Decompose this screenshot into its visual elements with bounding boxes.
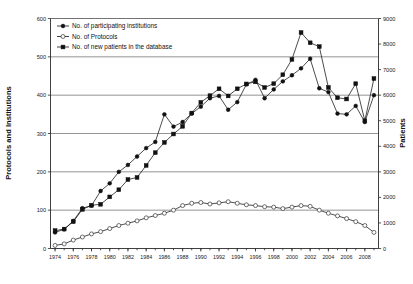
x-tick-label: 1996 xyxy=(250,254,262,260)
data-point-marker xyxy=(144,216,148,220)
data-point-marker xyxy=(317,45,321,49)
data-point-marker xyxy=(281,73,285,77)
y2-tick-label: 7000 xyxy=(383,67,395,73)
data-point-marker xyxy=(181,120,185,124)
data-point-marker xyxy=(53,229,57,233)
data-point-marker xyxy=(199,201,203,205)
y-tick-label: 500 xyxy=(37,54,46,60)
data-point-marker xyxy=(354,82,358,86)
y2-tick-label: 2000 xyxy=(383,194,395,200)
data-point-marker xyxy=(326,86,330,90)
data-point-marker xyxy=(199,100,203,104)
data-point-marker xyxy=(235,100,239,104)
x-tick-label: 1980 xyxy=(104,254,116,260)
data-point-marker xyxy=(172,208,176,212)
y2-tick-label: 8000 xyxy=(383,41,395,47)
y2-tick-label: 9000 xyxy=(383,16,395,22)
x-tick-label: 1994 xyxy=(231,254,243,260)
data-point-marker xyxy=(190,111,194,115)
data-point-marker xyxy=(153,151,157,155)
legend-label: No. of participating institutions xyxy=(72,22,157,30)
data-point-marker xyxy=(117,224,121,228)
data-point-marker xyxy=(345,217,349,221)
data-point-marker xyxy=(117,170,121,174)
x-tick-label: 2006 xyxy=(341,254,353,260)
y2-tick-label: 3000 xyxy=(383,169,395,175)
data-point-marker xyxy=(299,31,303,35)
data-point-marker xyxy=(281,207,285,211)
y2-tick-label: 5000 xyxy=(383,118,395,124)
data-point-marker xyxy=(263,86,267,90)
data-point-marker xyxy=(254,80,258,84)
data-point-marker xyxy=(199,105,203,109)
data-point-marker xyxy=(326,90,330,94)
x-tick-label: 2000 xyxy=(286,254,298,260)
data-point-marker xyxy=(372,230,376,234)
data-point-marker xyxy=(135,155,139,159)
data-point-marker xyxy=(308,57,312,61)
data-point-marker xyxy=(90,232,94,236)
data-point-marker xyxy=(126,163,130,167)
legend-label: No. of new patients in the database xyxy=(72,43,173,51)
x-tick-label: 1992 xyxy=(213,254,225,260)
data-point-marker xyxy=(62,242,66,246)
x-tick-label: 2008 xyxy=(359,254,371,260)
data-point-marker xyxy=(217,201,221,205)
y-tick-label: 0 xyxy=(43,246,46,252)
y-tick-label: 400 xyxy=(37,92,46,98)
data-point-marker xyxy=(272,205,276,209)
data-point-marker xyxy=(317,208,321,212)
x-tick-label: 1982 xyxy=(122,254,134,260)
data-point-marker xyxy=(181,204,185,208)
y-tick-label: 600 xyxy=(37,16,46,22)
data-point-marker xyxy=(372,77,376,81)
chart-container: 1974197619781980198219841986198819901992… xyxy=(0,0,413,284)
data-point-marker xyxy=(299,66,303,70)
data-point-marker xyxy=(354,220,358,224)
data-point-marker xyxy=(208,202,212,206)
x-tick-label: 1990 xyxy=(195,254,207,260)
data-point-marker xyxy=(62,227,66,231)
data-point-marker xyxy=(244,203,248,207)
data-point-marker xyxy=(144,146,148,150)
data-point-marker xyxy=(99,189,103,193)
data-point-marker xyxy=(308,204,312,208)
data-point-marker xyxy=(226,108,230,112)
data-point-marker xyxy=(181,124,185,128)
data-point-marker xyxy=(363,224,367,228)
data-point-marker xyxy=(217,87,221,91)
data-point-marker xyxy=(144,164,148,168)
data-point-marker xyxy=(71,220,75,224)
legend-item: No. of participating institutions xyxy=(57,22,157,30)
data-point-marker xyxy=(254,204,258,208)
data-point-marker xyxy=(336,112,340,116)
data-point-marker xyxy=(208,94,212,98)
data-point-marker xyxy=(345,112,349,116)
y2-tick-label: 6000 xyxy=(383,92,395,98)
data-point-marker xyxy=(345,97,349,101)
data-point-marker xyxy=(235,87,239,91)
data-point-marker xyxy=(80,235,84,239)
data-point-marker xyxy=(162,112,166,116)
data-point-marker xyxy=(108,181,112,185)
data-point-marker xyxy=(244,82,248,86)
line-chart: 1974197619781980198219841986198819901992… xyxy=(0,0,413,284)
data-point-marker xyxy=(53,243,57,247)
data-point-marker xyxy=(272,88,276,92)
data-point-marker xyxy=(354,104,358,108)
legend-label: No. of Protocols xyxy=(72,33,117,40)
data-point-marker xyxy=(226,200,230,204)
x-tick-label: 1978 xyxy=(86,254,98,260)
data-point-marker xyxy=(263,96,267,100)
data-point-marker xyxy=(290,57,294,61)
data-point-marker xyxy=(217,94,221,98)
data-point-marker xyxy=(281,79,285,83)
data-point-marker xyxy=(135,176,139,180)
data-point-marker xyxy=(326,211,330,215)
data-point-marker xyxy=(99,202,103,206)
data-point-marker xyxy=(235,201,239,205)
data-point-marker xyxy=(272,82,276,86)
legend-marker xyxy=(61,24,65,28)
data-point-marker xyxy=(317,86,321,90)
data-point-marker xyxy=(263,205,267,209)
